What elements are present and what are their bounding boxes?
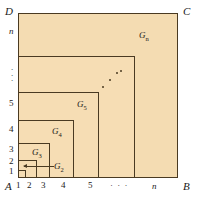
g2-pointer-arrow [24, 166, 54, 171]
y-tick-n: n [9, 27, 14, 36]
y-tick-1: 1 [9, 167, 14, 176]
nested-squares-figure: D C A B 1 2 3 4 5 n . . . 1 2 3 4 5 · · … [0, 0, 200, 197]
region-label-G2: G2 [54, 162, 64, 173]
x-tick-5: 5 [88, 181, 93, 190]
y-axis-vertical-ellipsis: . . . [8, 66, 16, 81]
region-label-G2-sub: 2 [61, 166, 64, 173]
dot [102, 86, 104, 88]
region-label-G5-sub: 5 [84, 104, 87, 111]
region-rect-G1 [18, 170, 26, 178]
region-label-G4-sub: 4 [59, 131, 62, 138]
interior-diagonal-dots [102, 70, 124, 90]
dot [116, 72, 118, 74]
region-label-Gn-sub: n [146, 35, 149, 42]
y-tick-4: 4 [9, 125, 14, 134]
y-tick-5: 5 [9, 99, 14, 108]
x-tick-1: 1 [16, 181, 21, 190]
x-tick-2: 2 [27, 181, 32, 190]
g2-arrow-shaft [24, 166, 54, 167]
y-tick-3: 3 [9, 145, 14, 154]
x-axis-ellipsis: · · · [110, 181, 129, 190]
x-tick-n: n [152, 182, 157, 191]
dot [109, 79, 111, 81]
region-label-G4: G4 [52, 127, 62, 138]
corner-label-B: B [183, 181, 190, 192]
region-label-G5: G5 [77, 100, 87, 111]
y-tick-2: 2 [9, 157, 14, 166]
corner-label-A: A [5, 181, 12, 192]
corner-label-C: C [183, 6, 190, 17]
x-tick-3: 3 [41, 181, 46, 190]
g2-arrow-head [23, 164, 27, 168]
dot [120, 70, 122, 72]
region-label-Gn: Gn [139, 31, 149, 42]
region-label-G3: G3 [32, 148, 42, 159]
region-label-G3-sub: 3 [39, 152, 42, 159]
x-tick-4: 4 [61, 181, 66, 190]
corner-label-D: D [5, 6, 13, 17]
